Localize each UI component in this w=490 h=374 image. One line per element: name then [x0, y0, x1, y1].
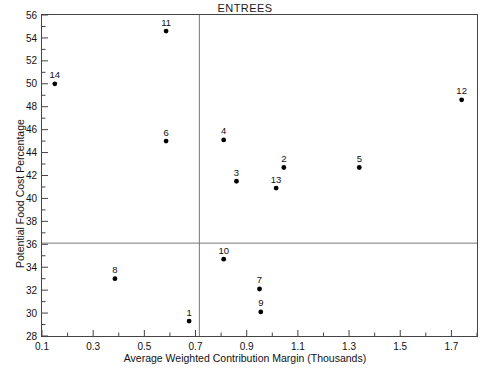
axis-tick-labels: 2830323436384042444648505254560.10.30.50…	[26, 10, 459, 352]
y-tick-label: 44	[26, 147, 38, 158]
y-tick-label: 50	[26, 78, 38, 89]
data-point-marker	[164, 139, 169, 144]
data-point-label: 14	[50, 69, 61, 80]
x-tick-label: 0.5	[137, 341, 151, 352]
data-point-marker	[52, 81, 57, 86]
data-point-marker	[257, 287, 262, 292]
data-points: 1234567891011121314	[50, 17, 467, 324]
x-tick-label: 1.1	[291, 341, 305, 352]
data-point-marker	[357, 165, 362, 170]
x-tick-label: 0.7	[189, 341, 203, 352]
x-tick-label: 0.9	[240, 341, 254, 352]
data-point: 14	[50, 69, 61, 86]
y-tick-label: 42	[26, 170, 38, 181]
y-tick-label: 28	[26, 331, 38, 342]
data-point-label: 7	[257, 274, 262, 285]
data-point: 3	[234, 167, 239, 184]
data-point-marker	[234, 179, 239, 184]
x-tick-label: 1.3	[342, 341, 356, 352]
data-point: 12	[456, 85, 467, 102]
data-point: 4	[221, 125, 226, 142]
data-point: 10	[218, 245, 229, 262]
data-point-marker	[113, 276, 118, 281]
y-tick-label: 56	[26, 10, 38, 21]
y-tick-label: 52	[26, 55, 38, 66]
y-tick-label: 36	[26, 239, 38, 250]
data-point: 13	[271, 174, 282, 191]
y-tick-label: 40	[26, 193, 38, 204]
data-point-marker	[221, 257, 226, 262]
data-point-marker	[221, 138, 226, 143]
data-point-marker	[274, 186, 279, 191]
data-point-marker	[459, 97, 464, 102]
data-point: 1	[186, 307, 191, 324]
data-point-label: 12	[456, 85, 467, 96]
scatter-plot-figure: ENTREES Potential Food Cost Percentage A…	[0, 0, 490, 374]
y-tick-label: 48	[26, 101, 38, 112]
data-point-label: 8	[112, 264, 117, 275]
x-tick-label: 1.7	[444, 341, 458, 352]
data-point: 7	[257, 274, 262, 291]
y-tick-label: 34	[26, 262, 38, 273]
data-point-label: 4	[221, 125, 226, 136]
data-point-label: 13	[271, 174, 282, 185]
x-tick-label: 0.3	[86, 341, 100, 352]
data-point: 9	[258, 297, 263, 314]
data-point-label: 6	[163, 127, 168, 138]
data-point-marker	[281, 165, 286, 170]
y-tick-label: 32	[26, 285, 38, 296]
data-point-label: 2	[281, 153, 286, 164]
data-point: 2	[281, 153, 286, 170]
data-point-label: 1	[186, 307, 191, 318]
data-point-marker	[258, 310, 263, 315]
y-tick-label: 54	[26, 33, 38, 44]
data-point-label: 9	[258, 297, 263, 308]
data-point: 11	[161, 17, 171, 34]
x-tick-label: 0.1	[35, 341, 49, 352]
data-point-label: 11	[161, 17, 171, 28]
data-point-label: 10	[218, 245, 229, 256]
data-point: 5	[357, 153, 362, 170]
data-point-label: 5	[357, 153, 362, 164]
plot-canvas: 2830323436384042444648505254560.10.30.50…	[0, 0, 490, 374]
y-tick-label: 46	[26, 124, 38, 135]
data-point-label: 3	[234, 167, 239, 178]
y-tick-label: 30	[26, 308, 38, 319]
data-point-marker	[164, 29, 169, 34]
data-point-marker	[187, 319, 192, 324]
x-tick-label: 1.5	[393, 341, 407, 352]
data-point: 8	[112, 264, 117, 281]
data-point: 6	[163, 127, 168, 144]
y-tick-label: 38	[26, 216, 38, 227]
